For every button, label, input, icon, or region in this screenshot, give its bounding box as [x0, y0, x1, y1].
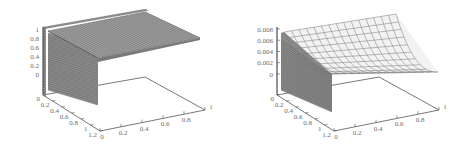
- x-tick-label: 1: [209, 103, 213, 111]
- y-tick: [91, 125, 94, 126]
- y-tick: [81, 119, 84, 120]
- z-tick-label: 0: [270, 71, 274, 79]
- x-tick-label: 0.4: [374, 125, 383, 133]
- z-tick-label: 0.006: [257, 37, 273, 45]
- right-surface-plot: 0.0080.0060.0040.002000.20.40.60.811.200…: [234, 0, 468, 145]
- x-tick-label: 0: [334, 133, 338, 141]
- x-tick-label: 0.4: [140, 125, 149, 133]
- y-tick: [72, 113, 75, 114]
- z-tick-label: 0.004: [257, 48, 273, 56]
- z-tick-label: 0.8: [30, 35, 39, 43]
- y-tick-label: 0.2: [275, 101, 284, 109]
- y-tick-label: 0.8: [303, 119, 312, 127]
- z-tick-label: 0.4: [30, 53, 39, 61]
- y-tick-label: 0.6: [60, 113, 69, 121]
- y-tick-label: 0.6: [294, 113, 303, 121]
- y-tick: [306, 113, 309, 114]
- x-tick-label: 0: [100, 133, 104, 141]
- z-tick-label: 0.2: [30, 62, 39, 70]
- y-tick-label: 0.4: [284, 107, 293, 115]
- y-tick-label: 1.2: [322, 131, 331, 139]
- z-tick-label: 1: [36, 26, 40, 34]
- z-tick-label: 0: [36, 71, 40, 79]
- y-tick: [315, 119, 318, 120]
- z-tick-label: 0.008: [257, 26, 273, 34]
- right-plot-canvas: 0.0080.0060.0040.002000.20.40.60.811.200…: [234, 0, 468, 145]
- y-tick: [287, 101, 290, 102]
- z-tick-label: 0.002: [257, 59, 273, 67]
- figure: 10.80.60.40.2000.20.40.60.811.200.20.40.…: [0, 0, 468, 145]
- x-tick-label: 0.2: [119, 129, 128, 137]
- y-tick-label: 0.2: [41, 101, 50, 109]
- x-tick-label: 0.8: [182, 116, 191, 124]
- y-tick-label: 0.8: [69, 119, 78, 127]
- y-tick: [325, 125, 328, 126]
- x-tick-label: 0.2: [353, 129, 362, 137]
- left-surface-plot: 10.80.60.40.2000.20.40.60.811.200.20.40.…: [0, 0, 234, 145]
- x-tick-label: 0.6: [161, 120, 170, 128]
- y-tick: [53, 101, 56, 102]
- z-tick-label: 0.6: [30, 44, 39, 52]
- left-plot-canvas: 10.80.60.40.2000.20.40.60.811.200.20.40.…: [0, 0, 234, 145]
- y-tick-label: 0.4: [50, 107, 59, 115]
- y-tick-label: 1.2: [88, 131, 97, 139]
- y-tick: [296, 107, 299, 108]
- y-tick: [62, 107, 65, 108]
- x-tick-label: 1: [443, 103, 447, 111]
- x-tick-label: 0.6: [395, 120, 404, 128]
- x-tick-label: 0.8: [416, 116, 425, 124]
